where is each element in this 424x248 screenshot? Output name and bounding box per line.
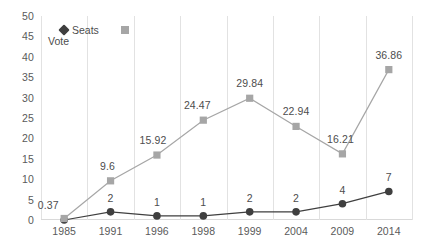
- data-point-vote[interactable]: [200, 117, 207, 124]
- x-tick-label: 1991: [99, 225, 123, 237]
- chart-legend: Seats: [60, 22, 129, 38]
- data-label-vote: 9.6: [100, 160, 115, 172]
- data-label-seats: 2: [293, 192, 299, 204]
- legend-label-vote: Vote: [48, 35, 69, 47]
- plot-area: 21122470.379.615.9224.4729.8422.9416.213…: [41, 16, 412, 220]
- chart-container: 05101520253035404550 21122470.379.615.92…: [0, 0, 424, 248]
- x-tick-label: 2009: [331, 225, 355, 237]
- x-axis: 19851991199619981999200420092014: [41, 222, 412, 248]
- y-tick-label: 20: [22, 132, 34, 144]
- data-point-vote[interactable]: [246, 95, 253, 102]
- y-tick-label: 5: [28, 194, 34, 206]
- legend-entry-vote[interactable]: [103, 26, 129, 34]
- y-tick-label: 15: [22, 153, 34, 165]
- data-point-vote[interactable]: [153, 151, 160, 158]
- data-point-vote[interactable]: [61, 215, 68, 222]
- vote-marker-icon: [121, 26, 129, 34]
- data-label-seats: 4: [339, 184, 345, 196]
- gridline-vertical: [412, 16, 413, 220]
- y-tick-label: 25: [22, 112, 34, 124]
- data-label-seats: 1: [200, 196, 206, 208]
- data-label-vote: 22.94: [283, 105, 310, 117]
- x-tick-label: 1985: [52, 225, 76, 237]
- y-tick-label: 35: [22, 71, 34, 83]
- data-label-vote: 24.47: [184, 99, 211, 111]
- y-tick-label: 45: [22, 30, 34, 42]
- data-label-vote: 16.21: [327, 133, 354, 145]
- data-label-vote: 29.84: [236, 77, 263, 89]
- y-tick-label: 0: [28, 214, 34, 226]
- data-point-seats[interactable]: [385, 188, 393, 196]
- data-label-vote: 15.92: [140, 134, 167, 146]
- y-tick-label: 30: [22, 92, 34, 104]
- data-point-seats[interactable]: [153, 212, 161, 220]
- data-label-seats: 7: [386, 171, 392, 183]
- x-tick-label: 2014: [377, 225, 401, 237]
- data-point-seats[interactable]: [339, 200, 347, 208]
- legend-label-seats: Seats: [72, 24, 99, 36]
- data-point-seats[interactable]: [200, 212, 208, 220]
- x-tick-label: 1998: [191, 225, 215, 237]
- x-tick-label: 1996: [145, 225, 169, 237]
- data-point-vote[interactable]: [107, 177, 114, 184]
- y-tick-label: 10: [22, 173, 34, 185]
- seats-marker-icon: [58, 24, 69, 35]
- x-tick-label: 1999: [238, 225, 262, 237]
- series-layer: [41, 16, 412, 220]
- data-point-vote[interactable]: [292, 123, 299, 130]
- y-axis: 05101520253035404550: [0, 0, 41, 248]
- x-tick-label: 2004: [284, 225, 308, 237]
- data-point-seats[interactable]: [107, 208, 115, 216]
- data-label-seats: 2: [108, 192, 114, 204]
- data-label-seats: 1: [154, 196, 160, 208]
- data-point-vote[interactable]: [385, 66, 392, 73]
- data-point-seats[interactable]: [246, 208, 254, 216]
- data-label-seats: 2: [247, 192, 253, 204]
- y-tick-label: 40: [22, 51, 34, 63]
- data-label-vote: 0.37: [38, 199, 59, 211]
- data-point-seats[interactable]: [292, 208, 300, 216]
- y-tick-label: 50: [22, 10, 34, 22]
- data-point-vote[interactable]: [339, 150, 346, 157]
- data-label-vote: 36.86: [375, 49, 402, 61]
